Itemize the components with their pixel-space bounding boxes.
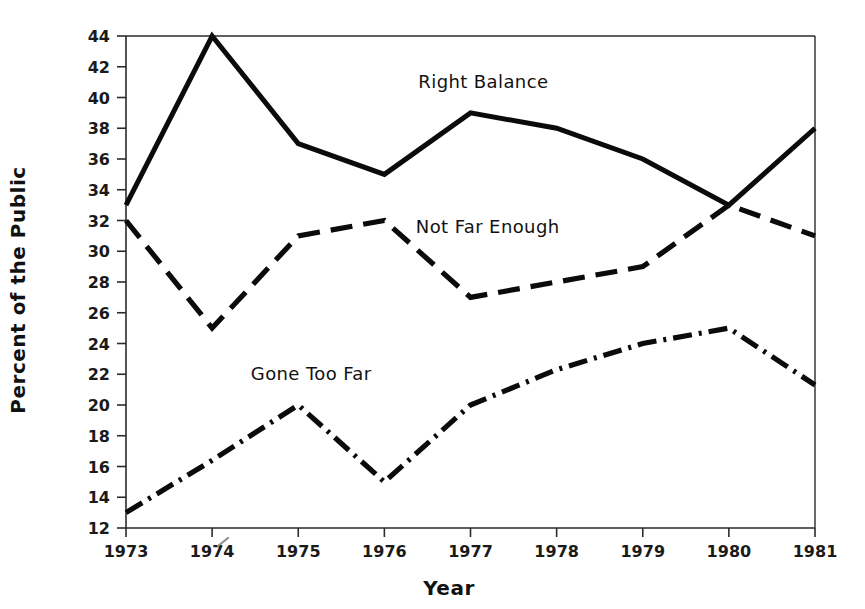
y-tick-label: 32 bbox=[88, 212, 110, 231]
x-tick-label: 1973 bbox=[104, 542, 149, 561]
x-tick-label: 1977 bbox=[448, 542, 493, 561]
y-tick-label: 22 bbox=[88, 365, 110, 384]
series-label-right-balance: Right Balance bbox=[418, 71, 548, 92]
y-tick-label: 30 bbox=[88, 242, 110, 261]
chart-canvas: 1214161820222426283032343638404244 19731… bbox=[0, 0, 865, 609]
series-label-gone-too-far: Gone Too Far bbox=[251, 363, 372, 384]
y-tick-label: 20 bbox=[88, 396, 110, 415]
y-tick-label: 28 bbox=[88, 273, 110, 292]
x-tick-label: 1976 bbox=[362, 542, 407, 561]
y-tick-label: 42 bbox=[88, 58, 110, 77]
series-line-right-balance bbox=[126, 36, 815, 205]
data-series-group bbox=[126, 36, 815, 513]
x-tick-label: 1975 bbox=[276, 542, 321, 561]
x-tick-label: 1978 bbox=[534, 542, 579, 561]
y-tick-label: 26 bbox=[88, 304, 110, 323]
y-tick-label: 14 bbox=[88, 488, 110, 507]
series-line-gone-too-far bbox=[126, 328, 815, 513]
series-label-not-far-enough: Not Far Enough bbox=[416, 216, 560, 237]
y-tick-label: 16 bbox=[88, 458, 110, 477]
y-axis-ticks: 1214161820222426283032343638404244 bbox=[88, 27, 126, 538]
y-axis-title: Percent of the Public bbox=[6, 166, 30, 413]
y-tick-label: 18 bbox=[88, 427, 110, 446]
x-axis-title: Year bbox=[422, 576, 475, 600]
y-tick-label: 34 bbox=[88, 181, 110, 200]
x-axis-ticks: 197319741975197619771978197919801981 bbox=[104, 528, 838, 561]
y-tick-label: 40 bbox=[88, 89, 110, 108]
x-tick-label: 1981 bbox=[793, 542, 838, 561]
y-tick-label: 36 bbox=[88, 150, 110, 169]
y-tick-label: 24 bbox=[88, 335, 110, 354]
y-tick-label: 12 bbox=[88, 519, 110, 538]
plot-frame bbox=[126, 36, 815, 528]
line-chart: 1214161820222426283032343638404244 19731… bbox=[0, 0, 865, 609]
x-tick-label: 1974 bbox=[190, 542, 235, 561]
y-tick-label: 44 bbox=[88, 27, 110, 46]
x-tick-label: 1980 bbox=[707, 542, 752, 561]
y-tick-label: 38 bbox=[88, 119, 110, 138]
x-tick-label: 1979 bbox=[620, 542, 665, 561]
